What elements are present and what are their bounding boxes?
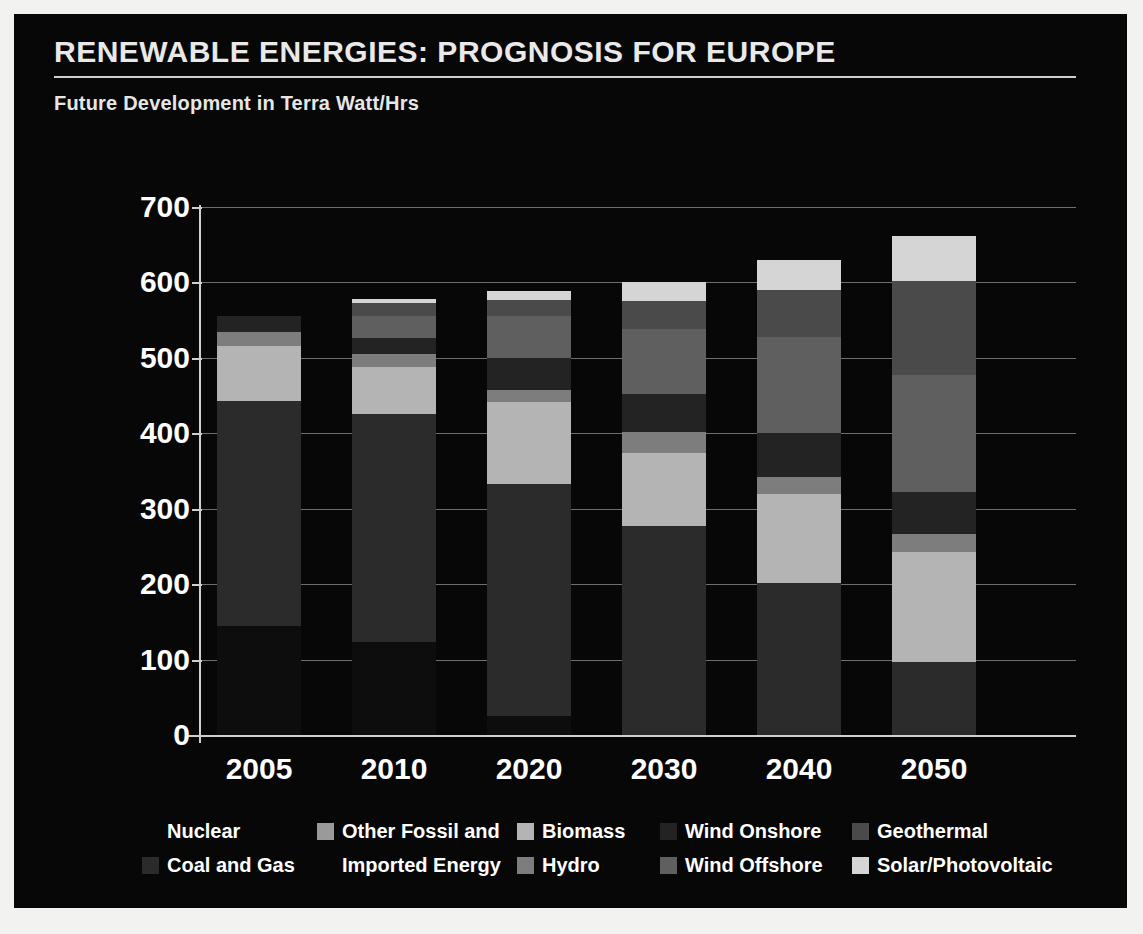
bar-segment[interactable] bbox=[487, 390, 571, 403]
bar-segment[interactable] bbox=[622, 301, 706, 329]
x-axis-tick-label: 2020 bbox=[459, 752, 599, 786]
legend-swatch-icon bbox=[517, 857, 534, 874]
x-axis-tick-label: 2030 bbox=[594, 752, 734, 786]
bar-segment[interactable] bbox=[487, 402, 571, 483]
bar-segment[interactable] bbox=[352, 303, 436, 317]
legend-item-label: Wind Onshore bbox=[685, 820, 821, 842]
legend-item-label: Other Fossil and bbox=[342, 820, 500, 842]
legend-item[interactable]: Coal and Gas bbox=[142, 854, 295, 876]
legend-item[interactable]: Solar/Photovoltaic bbox=[852, 854, 1053, 876]
slide-canvas: RENEWABLE ENERGIES: PROGNOSIS FOR EUROPE… bbox=[14, 14, 1127, 908]
x-axis-tick-label: 2010 bbox=[324, 752, 464, 786]
bar-segment[interactable] bbox=[217, 626, 301, 735]
y-axis-tick-label: 0 bbox=[106, 720, 190, 750]
bar-column[interactable] bbox=[217, 207, 301, 735]
bar-segment[interactable] bbox=[487, 291, 571, 299]
bar-segment[interactable] bbox=[487, 716, 571, 735]
bar-segment[interactable] bbox=[757, 477, 841, 494]
bar-column[interactable] bbox=[892, 207, 976, 735]
x-axis-line bbox=[186, 735, 1076, 737]
bar-column[interactable] bbox=[352, 207, 436, 735]
bar-segment[interactable] bbox=[757, 494, 841, 582]
legend-item-label: Coal and Gas bbox=[167, 854, 295, 876]
legend-item-label: Wind Offshore bbox=[685, 854, 823, 876]
bar-segment[interactable] bbox=[487, 316, 571, 357]
bar-segment[interactable] bbox=[487, 484, 571, 716]
legend-swatch-icon bbox=[852, 857, 869, 874]
bar-segment[interactable] bbox=[892, 236, 976, 281]
bar-segment[interactable] bbox=[757, 433, 841, 477]
chart-legend: NuclearOther Fossil andBiomassWind Onsho… bbox=[142, 820, 1102, 888]
bar-segment[interactable] bbox=[892, 662, 976, 735]
legend-item-label: Nuclear bbox=[167, 820, 240, 842]
bar-segment[interactable] bbox=[892, 375, 976, 492]
bar-segment[interactable] bbox=[352, 642, 436, 735]
y-axis-tick-label: 600 bbox=[106, 267, 190, 297]
bar-series-layer bbox=[200, 207, 1076, 735]
y-axis-tick-mark bbox=[192, 735, 202, 737]
legend-item[interactable]: Wind Offshore bbox=[660, 854, 823, 876]
bar-segment[interactable] bbox=[487, 300, 571, 317]
y-axis-tick-label: 500 bbox=[106, 343, 190, 373]
bar-segment[interactable] bbox=[892, 492, 976, 533]
bar-segment[interactable] bbox=[217, 346, 301, 401]
x-axis-tick-label: 2005 bbox=[189, 752, 329, 786]
y-axis-tick-mark bbox=[192, 660, 202, 662]
y-axis-tick-label: 300 bbox=[106, 494, 190, 524]
y-axis-tick-mark bbox=[192, 358, 202, 360]
legend-row: Coal and GasImported EnergyHydroWind Off… bbox=[142, 854, 1102, 888]
bar-segment[interactable] bbox=[757, 260, 841, 290]
x-axis-tick-label: 2050 bbox=[864, 752, 1004, 786]
bar-segment[interactable] bbox=[352, 316, 436, 337]
bar-column[interactable] bbox=[622, 207, 706, 735]
legend-swatch-icon bbox=[660, 823, 677, 840]
bar-segment[interactable] bbox=[217, 332, 301, 346]
legend-item[interactable]: Imported Energy bbox=[317, 854, 501, 876]
x-axis-tick-label: 2040 bbox=[729, 752, 869, 786]
bar-segment[interactable] bbox=[622, 394, 706, 432]
legend-item[interactable]: Biomass bbox=[517, 820, 625, 842]
legend-item[interactable]: Wind Onshore bbox=[660, 820, 821, 842]
bar-segment[interactable] bbox=[622, 329, 706, 394]
bar-segment[interactable] bbox=[622, 282, 706, 301]
legend-item[interactable]: Hydro bbox=[517, 854, 600, 876]
bar-column[interactable] bbox=[757, 207, 841, 735]
bar-segment[interactable] bbox=[352, 367, 436, 414]
legend-item-label: Solar/Photovoltaic bbox=[877, 854, 1053, 876]
y-axis-tick-mark bbox=[192, 282, 202, 284]
bar-segment[interactable] bbox=[892, 534, 976, 553]
bar-segment[interactable] bbox=[622, 432, 706, 453]
bar-segment[interactable] bbox=[757, 290, 841, 337]
bar-segment[interactable] bbox=[352, 414, 436, 643]
bar-segment[interactable] bbox=[892, 552, 976, 661]
bar-segment[interactable] bbox=[622, 453, 706, 526]
chart-plot-area: 0100200300400500600700 20052010202020302… bbox=[14, 14, 1127, 908]
legend-swatch-icon bbox=[852, 823, 869, 840]
y-axis-tick-mark bbox=[192, 433, 202, 435]
bar-segment[interactable] bbox=[217, 401, 301, 626]
bar-segment[interactable] bbox=[487, 358, 571, 390]
bar-column[interactable] bbox=[487, 207, 571, 735]
y-axis-tick-label: 700 bbox=[106, 192, 190, 222]
bar-segment[interactable] bbox=[352, 299, 436, 303]
bar-segment[interactable] bbox=[352, 338, 436, 355]
y-axis-tick-label: 100 bbox=[106, 645, 190, 675]
legend-swatch-icon bbox=[317, 823, 334, 840]
y-axis-tick-mark bbox=[192, 509, 202, 511]
legend-item-label: Geothermal bbox=[877, 820, 988, 842]
legend-item-label: Imported Energy bbox=[342, 854, 501, 876]
legend-item[interactable]: Nuclear bbox=[142, 820, 240, 842]
bar-segment[interactable] bbox=[217, 316, 301, 333]
bar-segment[interactable] bbox=[622, 526, 706, 735]
legend-item-label: Hydro bbox=[542, 854, 600, 876]
y-axis-tick-mark bbox=[192, 584, 202, 586]
slide-frame: RENEWABLE ENERGIES: PROGNOSIS FOR EUROPE… bbox=[0, 0, 1143, 934]
legend-swatch-icon bbox=[660, 857, 677, 874]
bar-segment[interactable] bbox=[892, 281, 976, 375]
bar-segment[interactable] bbox=[757, 583, 841, 735]
legend-item[interactable]: Geothermal bbox=[852, 820, 988, 842]
y-axis-tick-mark bbox=[192, 207, 202, 209]
bar-segment[interactable] bbox=[352, 354, 436, 367]
legend-item[interactable]: Other Fossil and bbox=[317, 820, 500, 842]
bar-segment[interactable] bbox=[757, 337, 841, 434]
